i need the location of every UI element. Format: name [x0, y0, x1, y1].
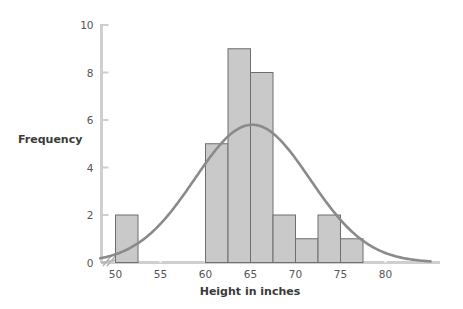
histogram-bar [251, 73, 274, 263]
histogram-bar [318, 215, 341, 263]
y-axis-tick-label: 10 [80, 19, 93, 31]
x-axis-tick-label: 60 [199, 268, 212, 280]
y-axis-tick-label: 8 [87, 67, 94, 79]
y-axis-tick-label: 6 [87, 114, 94, 126]
y-axis-tick-label: 0 [87, 257, 94, 269]
histogram-bar [228, 49, 251, 263]
y-axis-title: Frequency [18, 133, 82, 146]
x-axis-tick-label: 50 [109, 268, 122, 280]
y-axis-tick-label: 2 [87, 209, 94, 221]
histogram-bar [341, 239, 364, 263]
chart-canvas: 0246810 50556065707580 Frequency Height … [0, 0, 463, 309]
x-axis-tick-label: 55 [154, 268, 167, 280]
histogram-bar [273, 215, 296, 263]
y-axis-tick-label: 4 [87, 162, 94, 174]
x-axis-tick-label: 75 [334, 268, 347, 280]
x-axis-tick-label: 80 [379, 268, 392, 280]
x-axis-tick-label: 70 [289, 268, 302, 280]
x-axis-tick-label: 65 [244, 268, 257, 280]
histogram-bar [116, 215, 139, 263]
x-axis-title: Height in inches [200, 285, 301, 298]
histogram-chart: 0246810 50556065707580 Frequency Height … [0, 0, 463, 309]
histogram-bar [206, 144, 229, 263]
histogram-bar [296, 239, 319, 263]
